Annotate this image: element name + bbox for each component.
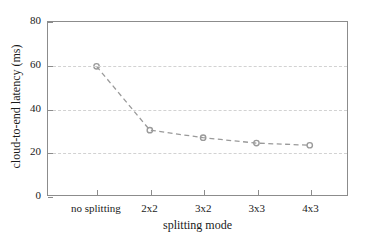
x-tick-mark-1: [151, 190, 152, 195]
x-tick-label-0: no splitting: [71, 202, 121, 214]
y-tick-label-20: 20: [0, 146, 41, 157]
gridline-y-40: [48, 110, 347, 111]
y-tick-label-40: 40: [0, 103, 41, 114]
x-tick-mark-3: [258, 190, 259, 195]
y-tick-mark-40: [48, 110, 53, 111]
x-tick-mark-0: [97, 190, 98, 195]
series-line-0: [97, 66, 310, 145]
y-tick-label-80: 80: [0, 15, 41, 26]
gridline-y-60: [48, 66, 347, 67]
y-tick-mark-60: [48, 66, 53, 67]
x-tick-mark-4: [311, 190, 312, 195]
chart-figure: cloud-to-end latency (ms) splitting mode…: [0, 0, 366, 240]
y-tick-label-60: 60: [0, 59, 41, 70]
plot-area: [47, 21, 348, 196]
x-tick-label-4: 4x3: [302, 202, 319, 214]
y-tick-mark-80: [48, 22, 53, 23]
y-tick-label-0: 0: [0, 190, 41, 201]
x-tick-label-2: 3x2: [195, 202, 212, 214]
data-point-4x3: [307, 143, 312, 148]
y-tick-mark-0: [48, 197, 53, 198]
x-tick-label-3: 3x3: [249, 202, 266, 214]
x-tick-label-1: 2x2: [141, 202, 158, 214]
x-axis-title: splitting mode: [47, 219, 348, 232]
y-tick-mark-20: [48, 153, 53, 154]
x-tick-mark-2: [204, 190, 205, 195]
gridline-y-20: [48, 153, 347, 154]
series-layer: [48, 22, 347, 195]
